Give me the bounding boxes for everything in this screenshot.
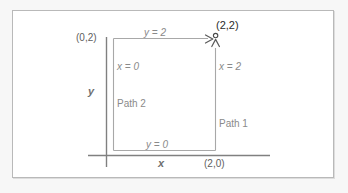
axis-label-x: x (158, 158, 164, 169)
path1-arrowhead-icon (212, 39, 220, 46)
path-diagram-svg (0, 0, 348, 193)
point-label-0-2: (0,2) (76, 32, 97, 43)
point-label-2-2: (2,2) (216, 20, 239, 31)
endpoint-open-circle-icon (213, 33, 217, 37)
figure-screenshot: (0,2) (2,2) (2,0) y = 2 x = 0 x = 2 y = … (0, 0, 348, 193)
segment-label-x-equals-2: x = 2 (219, 61, 241, 72)
segment-label-x-equals-0: x = 0 (117, 61, 139, 72)
path-label-path-2: Path 2 (117, 98, 146, 109)
path-label-path-1: Path 1 (219, 118, 248, 129)
axis-label-y: y (88, 86, 94, 97)
point-label-2-0: (2,0) (204, 158, 225, 169)
segment-label-y-equals-2: y = 2 (144, 27, 166, 38)
segment-label-y-equals-0: y = 0 (146, 139, 168, 150)
